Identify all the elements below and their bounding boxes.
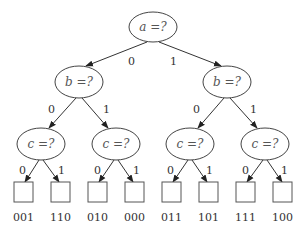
edge-label-bl-1: 1: [103, 103, 110, 116]
edge-label-c3-1: 1: [206, 164, 213, 177]
node-root-label: a =?: [139, 20, 167, 34]
edge-c3-0: [173, 160, 188, 182]
node-c4: c =?: [241, 128, 289, 160]
edge-c4-1: [267, 160, 282, 182]
edge-label-c2-0: 0: [94, 164, 101, 177]
node-b-right-label: b =?: [213, 75, 242, 89]
leaf-label-1: 110: [50, 211, 71, 224]
edge-label-c4-0: 0: [242, 164, 249, 177]
node-c3-label: c =?: [176, 137, 204, 151]
edge-label-c4-1: 1: [281, 164, 288, 177]
edge-label-root-0: 0: [128, 55, 135, 68]
leaf-label-2: 010: [87, 211, 108, 224]
decision-tree-diagram: 0 1 0 1 0 1 0 1 0 1 0 1 0 1 a =? b =? b …: [0, 0, 305, 232]
leaf-box-4: [162, 182, 181, 202]
edge-root-0: [86, 42, 147, 66]
leaf-label-6: 111: [235, 211, 256, 224]
edges: [25, 42, 282, 182]
leaf-box-0: [14, 182, 33, 202]
edge-root-1: [159, 42, 221, 66]
node-c1: c =?: [17, 128, 65, 160]
leaf-label-3: 000: [124, 211, 145, 224]
node-b-left-label: b =?: [65, 75, 94, 89]
node-root: a =?: [129, 12, 177, 42]
edge-c1-0: [25, 160, 39, 182]
edge-c1-1: [43, 160, 59, 182]
node-c2-label: c =?: [102, 137, 130, 151]
edge-c4-0: [247, 160, 263, 182]
edge-label-br-1: 1: [250, 103, 257, 116]
edge-label-bl-0: 0: [48, 103, 55, 116]
edge-label-c2-1: 1: [133, 164, 140, 177]
edge-label-c1-0: 0: [19, 164, 26, 177]
leaf-box-2: [88, 182, 107, 202]
leaf-box-3: [125, 182, 144, 202]
edge-label-br-0: 0: [193, 103, 200, 116]
leaf-label-5: 101: [198, 211, 219, 224]
edge-c3-1: [192, 160, 207, 182]
edge-label-c3-0: 0: [167, 164, 174, 177]
edge-label-root-1: 1: [170, 55, 177, 68]
node-c4-label: c =?: [251, 137, 279, 151]
leaf-box-1: [51, 182, 70, 202]
edge-c2-1: [118, 160, 133, 182]
leaf-box-6: [236, 182, 255, 202]
leaf-label-7: 100: [272, 211, 293, 224]
node-c3: c =?: [166, 128, 214, 160]
edge-br-0: [198, 98, 224, 128]
edge-c2-0: [99, 160, 114, 182]
leaf-label-0: 001: [13, 211, 34, 224]
leaves: 001 110 010 000 011 101 111 100: [13, 182, 293, 224]
leaf-label-4: 011: [161, 211, 182, 224]
edge-label-c1-1: 1: [58, 164, 65, 177]
leaf-box-7: [273, 182, 292, 202]
node-b-left: b =?: [55, 66, 103, 98]
node-c2: c =?: [92, 128, 140, 160]
leaf-box-5: [199, 182, 218, 202]
node-b-right: b =?: [203, 66, 251, 98]
node-c1-label: c =?: [27, 137, 55, 151]
